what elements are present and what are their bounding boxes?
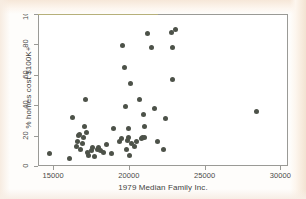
data-point <box>254 109 259 114</box>
data-point <box>75 139 80 144</box>
data-point <box>173 27 178 32</box>
data-point <box>145 31 150 36</box>
y-tick <box>34 44 38 45</box>
y-tick <box>34 136 38 137</box>
data-point <box>155 139 160 144</box>
x-tick <box>129 166 130 170</box>
x-tick-label: 15000 <box>33 171 73 180</box>
data-point <box>83 97 88 102</box>
data-point <box>47 151 52 156</box>
data-point <box>141 112 146 117</box>
data-point <box>152 106 157 111</box>
data-points-layer <box>38 14 288 166</box>
data-point <box>137 97 142 102</box>
data-point <box>109 151 114 156</box>
data-point <box>170 45 175 50</box>
data-point <box>142 135 147 140</box>
data-point <box>126 135 131 140</box>
data-point <box>142 124 147 129</box>
data-point <box>70 115 75 120</box>
data-point <box>122 65 127 70</box>
data-point <box>78 147 83 152</box>
data-point <box>120 43 125 48</box>
y-tick <box>34 14 38 15</box>
y-tick <box>34 166 38 167</box>
data-point <box>81 135 86 140</box>
x-tick-label: 25000 <box>185 171 225 180</box>
data-point <box>119 136 124 141</box>
data-point <box>124 147 129 152</box>
y-tick <box>34 105 38 106</box>
y-axis-title: % homes cost $100K+ <box>24 12 33 164</box>
data-point <box>123 104 128 109</box>
data-point <box>126 126 131 131</box>
x-tick <box>205 166 206 170</box>
data-point <box>128 81 133 86</box>
data-point <box>101 150 106 155</box>
data-point <box>127 153 132 158</box>
data-point <box>80 141 85 146</box>
screenshot-root: 15000200002500030000 020406080100 1979 M… <box>0 0 306 199</box>
data-point <box>82 124 87 129</box>
x-axis-title: 1979 Median Family Inc. <box>38 183 288 192</box>
data-point <box>132 144 137 149</box>
data-point <box>134 139 139 144</box>
data-point <box>86 153 91 158</box>
y-tick <box>34 75 38 76</box>
scatter-plot-figure: 15000200002500030000 020406080100 1979 M… <box>0 0 306 199</box>
data-point <box>163 116 168 121</box>
data-point <box>161 147 166 152</box>
x-tick-label: 20000 <box>109 171 149 180</box>
x-tick <box>280 166 281 170</box>
data-point <box>67 156 72 161</box>
data-point <box>84 130 89 135</box>
data-point <box>149 45 154 50</box>
data-point <box>170 77 175 82</box>
data-point <box>104 142 109 147</box>
data-point <box>111 126 116 131</box>
x-tick-label: 30000 <box>260 171 300 180</box>
data-point <box>92 154 97 159</box>
x-tick <box>53 166 54 170</box>
